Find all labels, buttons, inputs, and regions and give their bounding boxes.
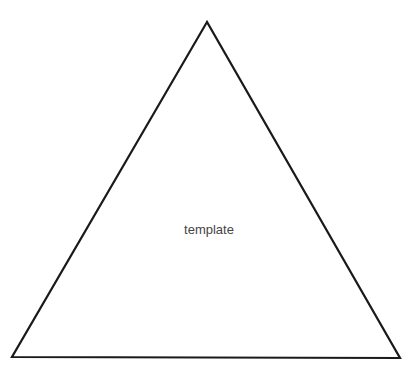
triangle-label: template — [0, 222, 418, 237]
diagram-canvas: template — [0, 0, 418, 380]
triangle-shape — [0, 0, 418, 380]
